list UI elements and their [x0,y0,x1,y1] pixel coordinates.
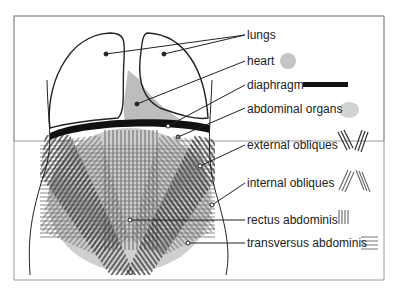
heart-swatch [280,53,296,69]
label-internal-obliques: internal obliques [247,176,334,190]
label-lungs: lungs [247,28,276,42]
label-heart: heart [247,54,274,68]
body-outline-right [209,80,228,275]
diaphragm-swatch [303,82,348,87]
internal-obliques-swatch [339,170,370,192]
lung-left [49,33,124,128]
heart [100,70,185,123]
label-abdominal-organs: abdominal organs [247,102,342,116]
label-transversus-abdominis: transversus abdominis [247,236,367,250]
label-diaphragm: diaphragm [247,78,304,92]
rectus-abdominis-swatch [339,210,348,224]
label-rectus-abdominis: rectus abdominis [247,213,338,227]
label-external-obliques: external obliques [247,138,338,152]
diagram-frame [14,16,384,141]
anatomy-diagram [0,0,399,304]
